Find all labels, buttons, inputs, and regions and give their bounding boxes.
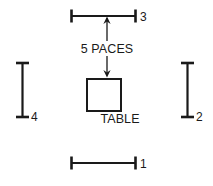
dimension-line-4: 4 bbox=[16, 63, 38, 124]
table-object: TABLE bbox=[87, 79, 140, 126]
dimension-line-1: 1 bbox=[72, 157, 148, 172]
distance-arrow-5-paces: 5 PACES bbox=[81, 17, 134, 78]
table-label: TABLE bbox=[100, 112, 139, 126]
dimension-2-label: 2 bbox=[196, 110, 203, 124]
diagram-canvas: 5 PACES TABLE 4 2 1 3 bbox=[0, 0, 213, 186]
dimension-1-label: 1 bbox=[140, 157, 147, 171]
dimension-3-label: 3 bbox=[140, 10, 147, 24]
dimension-line-2: 2 bbox=[181, 63, 203, 124]
measurement-diagram: 5 PACES TABLE 4 2 1 3 bbox=[0, 0, 213, 186]
distance-label: 5 PACES bbox=[81, 42, 134, 56]
table-square bbox=[87, 79, 121, 111]
dimension-4-label: 4 bbox=[31, 110, 38, 124]
dimension-line-3 bbox=[72, 10, 136, 23]
